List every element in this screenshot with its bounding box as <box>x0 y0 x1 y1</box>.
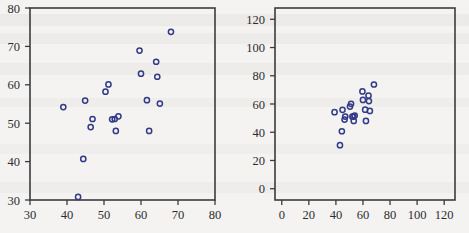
y-axis-tick-label: 120 <box>246 13 265 27</box>
data-points-group <box>332 82 377 148</box>
plot-frame <box>30 8 215 200</box>
data-points-group <box>61 29 174 199</box>
data-point-marker <box>366 93 371 98</box>
y-axis-tick-label: 30 <box>8 194 21 208</box>
y-axis-tick-label: 0 <box>259 182 265 196</box>
y-axis-tick-label: 80 <box>253 69 266 83</box>
data-point-marker <box>337 143 342 148</box>
data-point-marker <box>340 107 345 112</box>
data-point-marker <box>363 118 368 123</box>
x-axis-tick-label: 80 <box>209 208 222 222</box>
y-axis-tick-label: 100 <box>246 41 265 55</box>
data-point-marker <box>83 98 88 103</box>
y-axis-tick-label: 40 <box>8 155 21 169</box>
x-axis-tick-label: 20 <box>303 208 316 222</box>
data-point-marker <box>147 128 152 133</box>
x-axis-tick-label: 60 <box>135 208 148 222</box>
scatter-plot-right[interactable]: 020406080100120020406080100120 <box>235 0 469 233</box>
y-axis-tick-label: 70 <box>8 40 21 54</box>
data-point-marker <box>103 89 108 94</box>
y-axis-tick-label: 60 <box>253 98 266 112</box>
data-point-marker <box>155 74 160 79</box>
x-axis-tick-label: 0 <box>279 208 285 222</box>
x-axis-tick-label: 30 <box>24 208 37 222</box>
figure-page: 304050607080304050607080 020406080100120… <box>0 0 469 233</box>
data-point-marker <box>113 128 118 133</box>
scatter-plot-left[interactable]: 304050607080304050607080 <box>0 0 235 233</box>
x-axis-tick-label: 80 <box>384 208 397 222</box>
x-axis-tick-label: 70 <box>172 208 185 222</box>
data-point-marker <box>366 98 371 103</box>
scatter-panel-left: 304050607080304050607080 <box>0 0 235 233</box>
data-point-marker <box>332 110 337 115</box>
data-point-marker <box>371 82 376 87</box>
y-axis-tick-label: 80 <box>8 2 21 16</box>
data-point-marker <box>106 82 111 87</box>
data-point-marker <box>157 101 162 106</box>
data-point-marker <box>154 59 159 64</box>
y-axis-tick-label: 50 <box>8 117 21 131</box>
data-point-marker <box>360 97 365 102</box>
data-point-marker <box>88 124 93 129</box>
x-axis-tick-label: 50 <box>98 208 111 222</box>
x-axis-tick-label: 40 <box>330 208 343 222</box>
data-point-marker <box>339 129 344 134</box>
data-point-marker <box>168 29 173 34</box>
axes-group: 304050607080304050607080 <box>8 2 222 223</box>
x-axis-tick-label: 40 <box>61 208 74 222</box>
data-point-marker <box>137 48 142 53</box>
scatter-panel-right: 020406080100120020406080100120 <box>235 0 469 233</box>
data-point-marker <box>360 89 365 94</box>
y-axis-tick-label: 20 <box>253 154 266 168</box>
data-point-marker <box>90 116 95 121</box>
x-axis-tick-label: 60 <box>357 208 370 222</box>
x-axis-tick-label: 120 <box>435 208 454 222</box>
data-point-marker <box>81 156 86 161</box>
data-point-marker <box>61 104 66 109</box>
y-axis-tick-label: 60 <box>8 78 21 92</box>
x-axis-tick-label: 100 <box>408 208 427 222</box>
data-point-marker <box>138 71 143 76</box>
data-point-marker <box>144 98 149 103</box>
y-axis-tick-label: 40 <box>253 126 266 140</box>
data-point-marker <box>76 194 81 199</box>
plot-frame <box>275 8 455 200</box>
